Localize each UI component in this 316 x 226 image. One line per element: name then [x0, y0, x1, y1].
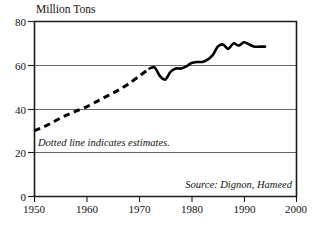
x-tick-label-2000: 2000 — [285, 203, 308, 215]
series-line-measured — [150, 42, 266, 79]
y-tick-label-20: 20 — [15, 147, 27, 159]
x-axis-ticks: 1950 1960 1970 1980 1990 2000 — [23, 197, 308, 216]
chart-figure: Million Tons 80 60 40 20 0 — [0, 0, 316, 226]
y-tick-label-0: 0 — [21, 191, 27, 203]
x-tick-label-1950: 1950 — [23, 203, 46, 215]
annotation-estimates: Dotted line indicates estimates. — [37, 137, 170, 148]
x-tick-label-1970: 1970 — [129, 203, 152, 215]
series-line-estimates — [34, 69, 150, 131]
x-tick-label-1980: 1980 — [181, 203, 204, 215]
y-axis-title: Million Tons — [36, 3, 96, 15]
x-tick-label-1990: 1990 — [234, 203, 257, 215]
x-tick-label-1960: 1960 — [76, 203, 99, 215]
y-axis-ticks: 80 60 40 20 0 — [15, 16, 34, 203]
y-tick-label-60: 60 — [15, 60, 27, 72]
annotation-source: Source: Dignon, Hameed — [185, 179, 292, 190]
y-tick-label-40: 40 — [15, 104, 27, 116]
y-tick-label-80: 80 — [15, 16, 27, 28]
chart-svg: Million Tons 80 60 40 20 0 — [0, 0, 316, 226]
data-series-group — [34, 42, 265, 131]
